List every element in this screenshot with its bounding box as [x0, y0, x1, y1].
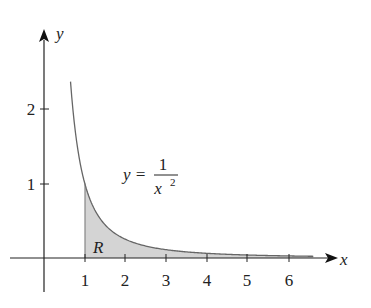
function-exponent: 2	[170, 176, 176, 188]
y-axis-label: y	[54, 24, 64, 43]
shaded-region-r	[85, 184, 313, 259]
x-tick-5: 5	[243, 271, 252, 290]
function-label: y = 1 x 2	[121, 155, 178, 198]
x-tick-2: 2	[121, 271, 130, 290]
y-ticks: 1 2	[27, 100, 49, 194]
graph-canvas: x y 1 2 3 4 5 6 1 2 R y = 1 x 2	[0, 0, 371, 308]
x-axis-label: x	[339, 250, 348, 269]
region-label: R	[92, 238, 104, 257]
function-denominator: x	[153, 179, 162, 198]
x-tick-1: 1	[81, 271, 90, 290]
function-lhs: y =	[121, 165, 146, 184]
x-ticks: 1 2 3 4 5 6	[81, 254, 294, 290]
x-tick-6: 6	[285, 271, 294, 290]
x-tick-3: 3	[162, 271, 171, 290]
x-tick-4: 4	[203, 271, 212, 290]
y-tick-1: 1	[27, 175, 36, 194]
y-tick-2: 2	[27, 100, 36, 119]
function-numerator: 1	[159, 155, 168, 174]
